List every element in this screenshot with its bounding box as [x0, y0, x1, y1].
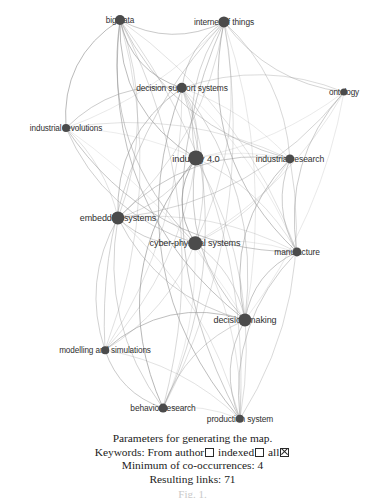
keywords-option-all: all: [268, 446, 279, 458]
checkbox-from-author[interactable]: [205, 448, 214, 457]
caption-line-min-cooccurrences: Minimum of co-occurrences: 4: [0, 459, 385, 473]
graph-node-cyber-physical-systems[interactable]: [188, 236, 202, 250]
graph-edge: [120, 20, 297, 252]
graph-edge: [195, 22, 231, 243]
graph-edge: [66, 128, 297, 252]
graph-node-behavior-research[interactable]: [159, 404, 168, 413]
keywords-option-indexed: indexed: [218, 446, 254, 458]
graph-edge: [66, 20, 120, 128]
graph-edge: [294, 92, 344, 252]
graph-node-big-data[interactable]: [115, 15, 125, 25]
graph-edge: [240, 159, 296, 419]
graph-edge: [224, 22, 290, 159]
caption-line-parameters: Parameters for generating the map.: [0, 432, 385, 446]
graph-edge: [224, 22, 344, 92]
graph-node-modelling-and-simulations[interactable]: [101, 346, 109, 354]
figure-caption: Parameters for generating the map. Keywo…: [0, 432, 385, 486]
graph-node-industrial-revolutions[interactable]: [62, 124, 70, 132]
checkbox-indexed[interactable]: [255, 448, 264, 457]
graph-edge: [120, 20, 182, 88]
graph-edge: [238, 252, 297, 419]
graph-edge: [120, 20, 224, 34]
graph-edge: [192, 22, 224, 158]
checkbox-all[interactable]: [280, 448, 289, 457]
graph-edge: [117, 20, 245, 320]
caption-line-keywords: Keywords: From author indexed all: [0, 446, 385, 460]
graph-edge: [118, 216, 297, 252]
network-graph: big datainternet of thingsdecision suppo…: [0, 0, 385, 432]
figure-number-partial: Fig. 1.: [0, 488, 385, 498]
graph-edge: [120, 20, 241, 419]
keywords-option-author: From author: [148, 446, 205, 458]
graph-edge: [120, 20, 290, 159]
graph-edge: [104, 22, 224, 350]
graph-edge: [105, 20, 140, 350]
graph-edge: [195, 92, 344, 243]
caption-line-resulting-links: Resulting links: 71: [0, 473, 385, 487]
keywords-label: Keywords:: [95, 446, 145, 458]
edge-layer: [0, 0, 385, 432]
figure-container: big datainternet of thingsdecision suppo…: [0, 0, 385, 498]
